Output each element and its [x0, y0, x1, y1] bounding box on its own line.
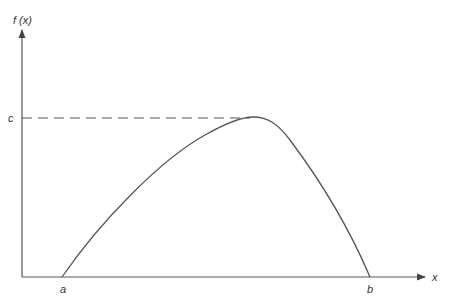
b-tick-label: b: [367, 283, 373, 295]
y-axis-label: f (x): [13, 14, 32, 26]
x-axis-label: x: [431, 271, 438, 283]
c-tick-label: c: [8, 112, 14, 124]
pdf-diagram: f (x) x c a b: [0, 0, 454, 305]
a-tick-label: a: [60, 283, 66, 295]
density-curve: [62, 117, 370, 277]
